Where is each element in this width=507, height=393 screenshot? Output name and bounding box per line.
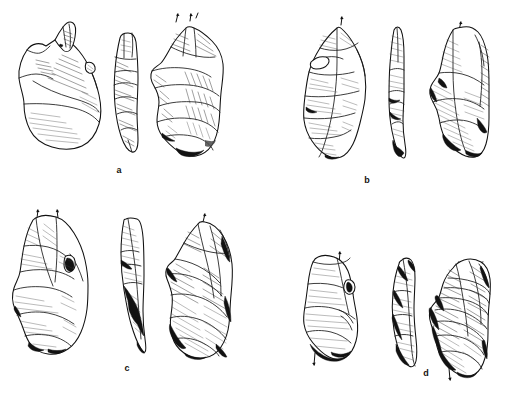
artifact-group-c: c bbox=[0, 196, 253, 393]
artifact-a-profile-view bbox=[114, 33, 138, 152]
artifact-b-profile-view bbox=[389, 27, 406, 158]
artifact-a-dorsal-face-view bbox=[19, 22, 101, 149]
direction-arrow-marks-a bbox=[176, 13, 198, 22]
artifact-d-ventral-face-view bbox=[429, 259, 490, 378]
artifact-b-ventral-face-view bbox=[430, 27, 489, 158]
artifact-c-profile-view bbox=[121, 218, 146, 353]
artifact-group-b-drawing bbox=[253, 0, 507, 196]
artifact-group-a-drawing bbox=[0, 0, 253, 196]
group-caption-d: d bbox=[419, 369, 433, 378]
artifact-group-b: b bbox=[253, 0, 507, 196]
artifact-group-a: a bbox=[0, 0, 253, 196]
artifact-d-profile-view bbox=[392, 258, 417, 367]
artifact-group-d: d bbox=[253, 196, 507, 393]
artifact-group-d-drawing bbox=[253, 196, 507, 393]
artifact-a-ventral-face-view bbox=[151, 27, 223, 157]
artifact-c-dorsal-face-view bbox=[13, 216, 88, 355]
group-caption-c: c bbox=[120, 364, 134, 373]
artifact-b-dorsal-face-view bbox=[304, 27, 366, 159]
illustration-plate: a bbox=[0, 0, 507, 393]
artifact-d-dorsal-face-view bbox=[304, 256, 358, 362]
direction-arrow-marks-b bbox=[340, 16, 462, 30]
group-caption-a: a bbox=[112, 166, 126, 175]
artifact-c-ventral-face-view bbox=[166, 222, 233, 360]
group-caption-b: b bbox=[360, 176, 374, 185]
